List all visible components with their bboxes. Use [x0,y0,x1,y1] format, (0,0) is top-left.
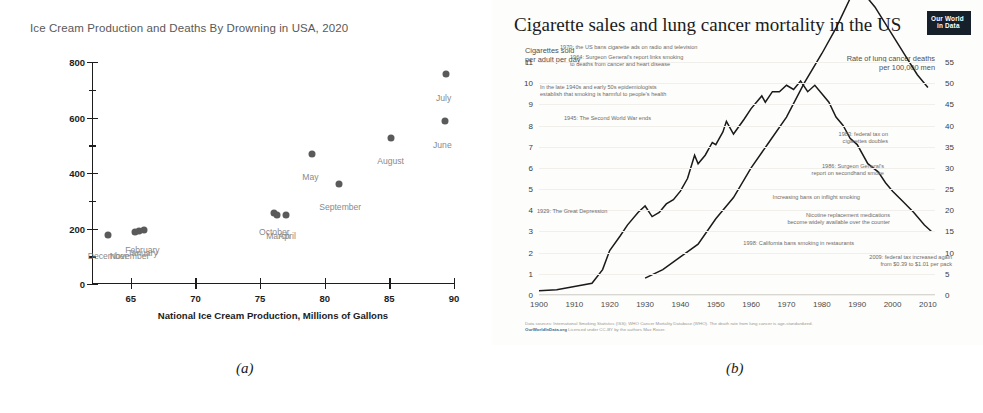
footer-licence: Licenced under CC-BY by the authors Max … [568,327,665,332]
right-axis-tick-label: 30 [945,163,954,172]
y-tick-label: 200 [69,223,85,234]
scatter-point[interactable] [308,150,315,157]
y-tick-major [87,118,98,119]
x-axis-tick-label: 1900 [530,300,548,309]
gridline [539,126,935,127]
y-tick-label: 0 [80,279,85,290]
scatter-point-label: June [433,140,452,150]
left-axis-tick-label: 5 [529,185,533,194]
x-axis-tick-label: 1970 [778,300,796,309]
x-axis-tick-label: 2000 [884,300,902,309]
scatter-point[interactable] [443,70,450,77]
x-axis-tick-label: 1920 [601,300,619,309]
x-axis-tick-label: 1980 [813,300,831,309]
x-tick [454,278,455,289]
x-tick-label: 75 [255,293,266,304]
x-axis-tick-label: 1990 [848,300,866,309]
y-tick-minor [89,201,96,202]
scatter-point[interactable] [441,117,448,124]
left-axis-tick-label: 3 [529,227,533,236]
gridline [539,147,935,148]
figure-caption-a: (a) [236,360,254,377]
footer-brand[interactable]: OurWorldInData.org [525,327,567,332]
gridline [539,274,935,275]
figure-pair: Ice Cream Production and Deaths By Drown… [0,0,983,413]
scatter-point-label: February [125,245,159,255]
x-tick [325,278,326,289]
scatter-point[interactable] [335,181,342,188]
right-axis-tick-label: 40 [945,121,954,130]
left-axis-tick-label: 4 [529,206,533,215]
chart-annotation: 1945: The Second World War ends [564,115,651,122]
y-tick-minor [89,145,96,146]
y-tick-major [87,229,98,230]
left-axis-tick-label: 11 [525,58,533,67]
gridline [539,189,935,190]
gridline [539,104,935,105]
chart-annotation: Nicotine replacement medicationsbecome w… [787,212,890,226]
x-tick-label: 85 [384,293,395,304]
scatter-point-label: May [302,172,318,182]
left-axis-tick-label: 9 [529,100,533,109]
y-tick-major [87,284,98,285]
scatter-point[interactable] [273,212,280,219]
panel-b-line-chart: Cigarette sales and lung cancer mortalit… [492,0,983,345]
x-axis-line [92,283,454,284]
chart-footer: Data sources: International Smoking Stat… [525,321,969,333]
panel-a-x-axis-label: National Ice Cream Production, Millions … [92,310,454,321]
x-axis-tick-label: 1950 [707,300,725,309]
right-axis-tick-label: 50 [945,79,954,88]
x-axis-tick-label: 1940 [672,300,690,309]
chart-annotation: 1929: The Great Depression [537,208,607,215]
scatter-point[interactable] [387,135,394,142]
scatter-point-label: August [377,156,404,166]
y-tick-label: 800 [69,57,85,68]
gridline [539,295,935,296]
chart-annotation: 1986: Surgeon General'sreport on secondh… [812,163,884,177]
right-axis-tick-label: 5 [945,269,949,278]
x-tick-label: 90 [449,293,460,304]
chart-annotation: In the late 1940s and early 50s epidemio… [540,84,666,98]
x-axis-tick-label: 1960 [742,300,760,309]
right-axis-tick-label: 20 [945,206,954,215]
left-axis-tick-label: 2 [529,248,533,257]
scatter-point[interactable] [140,226,147,233]
y-tick-major [87,173,98,174]
panel-a-scatter-chart: Ice Cream Production and Deaths By Drown… [0,0,500,345]
left-axis-tick-label: 0 [529,291,533,300]
right-axis-tick-label: 35 [945,142,954,151]
logo-line-2: in Data [931,22,968,29]
right-axis-tick-label: 45 [945,100,954,109]
scatter-point-label: September [319,202,361,212]
x-tick [195,278,196,289]
chart-annotation: 1998: California bans smoking in restaur… [743,240,854,247]
y-tick-minor [89,90,96,91]
scatter-point-label: July [436,93,451,103]
scatter-point-label: April [279,231,296,241]
left-axis-tick-label: 1 [529,269,533,278]
chart-annotation: 1970: the US bans cigarette ads on radio… [560,44,697,51]
left-axis-tick-label: 7 [529,142,533,151]
right-axis-tick-label: 25 [945,185,954,194]
scatter-point[interactable] [282,212,289,219]
y-tick-major [87,62,98,63]
x-tick-label: 65 [125,293,136,304]
scatter-point[interactable] [104,232,111,239]
chart-annotation: Increasing bans on inflight smoking [773,194,860,201]
logo-line-1: Our World [931,15,968,22]
x-axis-tick-label: 2010 [919,300,937,309]
chart-annotation: 1983: federal tax oncigarettes doubles [839,131,888,145]
x-tick-label: 80 [319,293,330,304]
chart-annotation: 2009: federal tax increased againfrom $0… [869,254,952,268]
left-axis-tick-label: 10 [524,79,533,88]
right-axis-tick-label: 15 [945,227,954,236]
panel-a-title: Ice Cream Production and Deaths By Drown… [30,22,348,34]
y-tick-label: 400 [69,168,85,179]
our-world-in-data-logo: Our World in Data [927,11,971,35]
x-axis-tick-label: 1910 [565,300,583,309]
x-axis-tick-label: 1930 [636,300,654,309]
scatter-plot-area: 0200400600800657075808590DecemberNovembe… [92,62,454,284]
panel-b-title: Cigarette sales and lung cancer mortalit… [514,14,901,36]
x-tick-label: 70 [190,293,201,304]
x-tick [260,278,261,289]
